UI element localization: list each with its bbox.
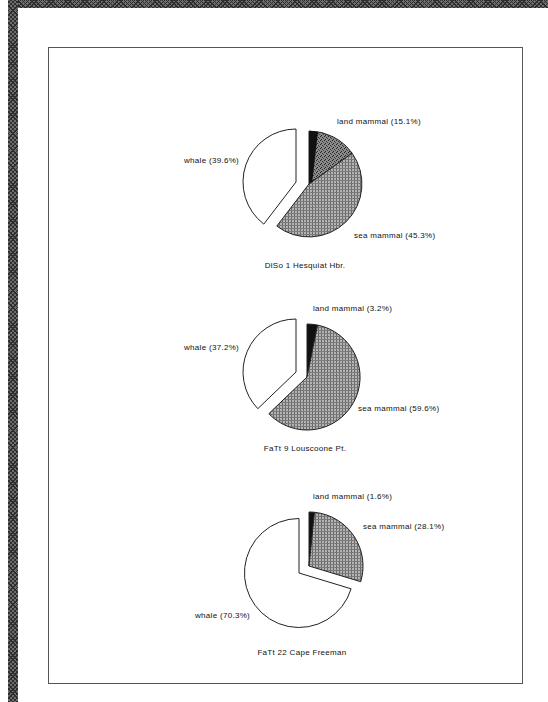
- pie-chart-1: land mammal (15.1%) sea mammal (45.3%) w…: [183, 117, 435, 270]
- label-sea-mammal: sea mammal (28.1%): [363, 522, 444, 531]
- slice-sea-mammal: [309, 512, 363, 581]
- chart-title: FaTt 22 Cape Freeman: [257, 648, 346, 657]
- label-whale: whale (70.3%): [194, 611, 250, 620]
- label-land-mammal: land mammal (1.6%): [313, 492, 392, 501]
- label-sea-mammal: sea mammal (59.6%): [358, 404, 439, 413]
- chart-title: FaTt 9 Louscoone Pt.: [264, 444, 347, 453]
- label-whale: whale (39.6%): [183, 156, 239, 165]
- label-whale: whale (37.2%): [183, 343, 239, 352]
- label-land-mammal: land mammal (15.1%): [337, 117, 421, 126]
- pie-charts: land mammal (15.1%) sea mammal (45.3%) w…: [0, 0, 548, 702]
- label-land-mammal: land mammal (3.2%): [313, 304, 392, 313]
- label-sea-mammal: sea mammal (45.3%): [354, 231, 435, 240]
- pie-chart-2: land mammal (3.2%) sea mammal (59.6%) wh…: [183, 304, 439, 453]
- pie-chart-3: land mammal (1.6%) sea mammal (28.1%) wh…: [194, 492, 444, 657]
- chart-title: DlSo 1 Hesquiat Hbr.: [265, 261, 346, 270]
- slice-whale: [243, 129, 296, 224]
